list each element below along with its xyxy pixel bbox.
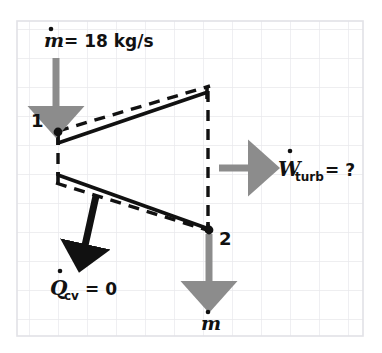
heat-transfer-subscript: cv <box>64 289 79 303</box>
mass-flow-out-symbol: m <box>201 312 221 334</box>
mass-flow-in-value: = 18 kg/s <box>64 31 154 51</box>
heat-transfer-suffix: = 0 <box>85 279 117 299</box>
work-output-overdot <box>288 149 293 154</box>
state-1-label: 1 <box>31 110 44 131</box>
work-output-suffix: = ? <box>325 160 355 180</box>
mass-flow-in-overdot <box>49 27 54 32</box>
diagram-canvas: m = 18 kg/s 1 2 W turb = ? Q cv = 0 m <box>0 0 382 353</box>
mass-flow-out-overdot <box>206 310 211 315</box>
work-output-subscript: turb <box>295 170 324 184</box>
mass-flow-out-label: m <box>201 310 221 334</box>
state-point-2-dot <box>205 226 214 235</box>
mass-flow-in-symbol: m <box>44 29 64 51</box>
state-point-1-dot <box>54 128 63 137</box>
mass-flow-in-label: m = 18 kg/s <box>44 27 154 51</box>
heat-transfer-overdot <box>58 269 63 274</box>
state-2-label: 2 <box>219 228 232 249</box>
turbine-diagram: m = 18 kg/s 1 2 W turb = ? Q cv = 0 m <box>0 0 382 353</box>
